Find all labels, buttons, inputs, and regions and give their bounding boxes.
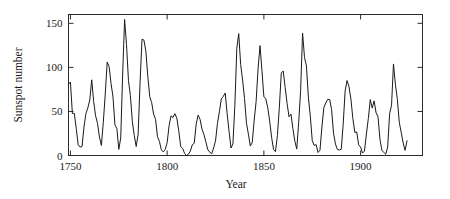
x-axis-title: Year [225,178,246,190]
y-tick-label-100: 100 [46,61,63,73]
y-tick-label-50: 50 [52,105,64,117]
sunspot-chart-figure: 050100150 1750180018501900 Sunspot numbe… [0,0,450,199]
x-tick-label-1900: 1900 [350,160,373,172]
x-tick-label-1800: 1800 [156,160,179,172]
sunspot-line-chart: 050100150 1750180018501900 Sunspot numbe… [0,0,450,199]
x-tick-label-1850: 1850 [253,160,276,172]
y-axis-title: Sunspot number [12,47,25,122]
y-tick-label-150: 150 [46,17,63,29]
x-tick-label-1750: 1750 [59,160,82,172]
